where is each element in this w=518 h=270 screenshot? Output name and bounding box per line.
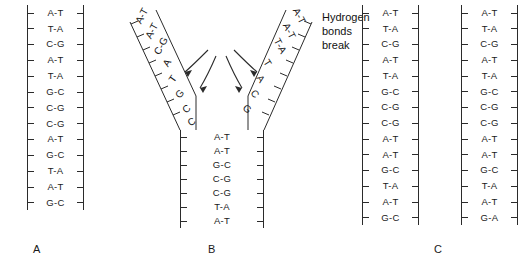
panel-c-right-base-pair-row: C-G	[461, 115, 518, 130]
rung-tick-right	[77, 171, 84, 172]
rung-tick-left	[461, 44, 468, 45]
rung-tick-right	[77, 44, 84, 45]
panel-c-left-base-pair-row: T-A	[362, 178, 419, 193]
base-pair-label: T-A	[48, 24, 64, 34]
rung-tick-right	[412, 154, 419, 155]
base-pair-label: T-A	[214, 202, 230, 212]
panel-a-base-pair-row: T-A	[27, 68, 84, 83]
panel-c-duplex-right: A-TT-AC-GA-TT-AG-CC-GC-GA-TA-TG-CT-AA-TG…	[461, 5, 518, 225]
base-pair-label: G-C	[46, 198, 64, 208]
rung-tick-right	[257, 165, 264, 166]
base-pair-label: T-A	[48, 71, 64, 81]
base-pair-label: T-A	[482, 181, 498, 191]
rung-tick-left	[27, 76, 34, 77]
base-pair-label: C-G	[213, 174, 231, 184]
rung-tick-right	[412, 107, 419, 108]
base-pair-label: C-G	[46, 103, 64, 113]
rung-tick-right	[511, 76, 518, 77]
rung-tick-right	[412, 202, 419, 203]
base-pair-label: C-G	[213, 188, 231, 198]
panel-a-base-pair-row: C-G	[27, 37, 84, 52]
rung-tick-left	[461, 139, 468, 140]
rung-tick-right	[77, 60, 84, 61]
base-pair-label: C-G	[480, 102, 498, 112]
rung-tick-right	[412, 60, 419, 61]
rung-tick-left	[461, 60, 468, 61]
rung-tick-left	[362, 123, 369, 124]
panel-c-left-base-pair-row: G-C	[362, 163, 419, 178]
base-pair-label: G-C	[381, 213, 399, 223]
rung-tick-left	[461, 217, 468, 218]
panel-a-base-pair-row: A-T	[27, 52, 84, 67]
rung-tick-right	[77, 13, 84, 14]
base-pair-label: T-A	[482, 24, 498, 34]
rung-tick-left	[27, 171, 34, 172]
base-pair-label: A-T	[47, 182, 63, 192]
rung-tick-left	[180, 179, 187, 180]
rung-tick-right	[77, 123, 84, 124]
base-pair-label: C-G	[381, 39, 399, 49]
rung-tick-left	[461, 123, 468, 124]
rung-tick-right	[511, 217, 518, 218]
rung-tick-right	[511, 107, 518, 108]
rung-tick-right	[412, 139, 419, 140]
base-pair-label: T-A	[383, 24, 399, 34]
rung-tick-right	[77, 28, 84, 29]
rung-tick-left	[27, 202, 34, 203]
rung-tick-right	[257, 137, 264, 138]
rung-tick-left	[180, 221, 187, 222]
rung-tick-left	[362, 91, 369, 92]
base-pair-label: G-A	[481, 213, 499, 223]
panel-c-right-base-pair-row: C-G	[461, 100, 518, 115]
panel-c-left-base-pair-row: A-T	[362, 52, 419, 67]
base-pair-label: G-C	[381, 87, 399, 97]
rung-tick-right	[412, 123, 419, 124]
panel-c-left-base-pair-row: A-T	[362, 5, 419, 20]
panel-a-base-pair-row: T-A	[27, 21, 84, 36]
base-pair-label: A-T	[481, 197, 497, 207]
rung-tick-left	[461, 13, 468, 14]
rung-tick-right	[511, 186, 518, 187]
panel-c-right-base-pair-row: G-A	[461, 210, 518, 225]
base-pair-label: T-A	[482, 71, 498, 81]
rung-tick-left	[362, 60, 369, 61]
base-pair-label: A-T	[382, 55, 398, 65]
rung-tick-left	[362, 76, 369, 77]
base-pair-label: G-C	[213, 160, 231, 170]
fork-stem-base-pair-row: C-G	[180, 172, 264, 186]
rung-tick-left	[461, 186, 468, 187]
rung-tick-left	[27, 44, 34, 45]
panel-a-base-pair-row: G-C	[27, 147, 84, 162]
panel-c-right-base-pair-row: T-A	[461, 68, 518, 83]
base-pair-label: A-T	[214, 132, 230, 142]
stem-base-pair-ladder: A-TA-TG-CC-GC-GT-AA-T	[180, 130, 264, 228]
panel-label-b: B	[208, 243, 215, 255]
rung-tick-left	[362, 107, 369, 108]
panel-c-left-base-pair-row: A-T	[362, 194, 419, 209]
panel-c-right-base-pair-row: T-A	[461, 21, 518, 36]
base-pair-label: C-G	[480, 39, 498, 49]
base-pair-label: A-T	[382, 197, 398, 207]
base-pair-label: G-C	[480, 87, 498, 97]
panel-c-left-base-pair-row: T-A	[362, 68, 419, 83]
base-pair-label: A-T	[47, 8, 63, 18]
fork-stem-duplex: A-TA-TG-CC-GC-GT-AA-T	[180, 130, 264, 228]
panel-c-right-base-pair-row: T-A	[461, 178, 518, 193]
panel-label-a: A	[33, 243, 40, 255]
rung-tick-left	[461, 154, 468, 155]
rung-tick-right	[77, 76, 84, 77]
rung-tick-left	[27, 139, 34, 140]
rung-tick-right	[511, 202, 518, 203]
base-pair-label: C-G	[46, 119, 64, 129]
rung-tick-right	[511, 170, 518, 171]
rung-tick-left	[362, 44, 369, 45]
base-pair-label: A-T	[382, 134, 398, 144]
base-pair-label: G-C	[381, 165, 399, 175]
panel-c-right-base-pair-row: A-T	[461, 5, 518, 20]
fork-stem-base-pair-row: A-T	[180, 144, 264, 158]
rung-tick-right	[412, 28, 419, 29]
panel-c-right-base-pair-row: A-T	[461, 131, 518, 146]
base-pair-label: G-C	[480, 165, 498, 175]
base-pair-label: A-T	[214, 146, 230, 156]
